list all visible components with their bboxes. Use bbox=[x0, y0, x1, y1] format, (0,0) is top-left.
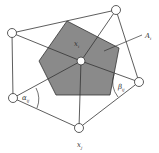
label-alpha-ij: αij bbox=[22, 94, 30, 103]
vertex-node-xi bbox=[77, 57, 85, 65]
vertex-node bbox=[9, 94, 18, 103]
vertex-node-xj bbox=[75, 124, 84, 133]
label-xj: xj bbox=[77, 141, 83, 150]
vertex-node bbox=[8, 29, 17, 38]
vertex-node bbox=[112, 6, 121, 15]
alpha-angle-arc bbox=[36, 88, 39, 108]
vertex-node bbox=[135, 78, 144, 87]
mesh-one-ring-diagram: xi Ai αij βij xj bbox=[0, 0, 159, 153]
label-beta-ij: βij bbox=[117, 83, 125, 92]
label-Ai: Ai bbox=[144, 32, 152, 41]
